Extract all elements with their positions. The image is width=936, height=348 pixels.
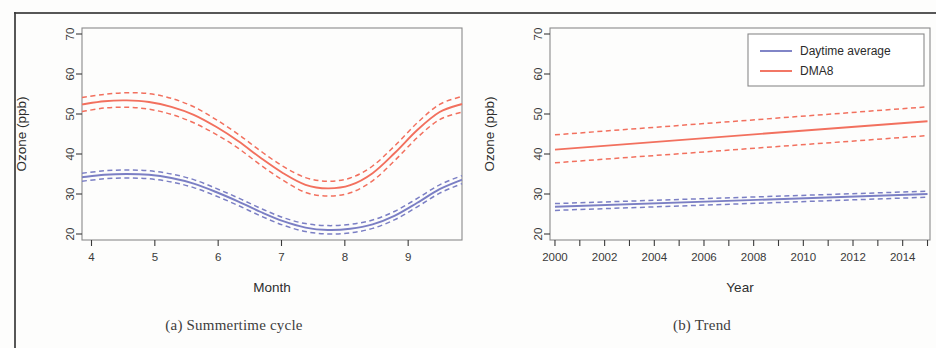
svg-text:2006: 2006	[691, 251, 717, 263]
svg-text:2000: 2000	[542, 251, 568, 263]
figure-page: 203040506070456789MonthOzone (ppb) (a) S…	[0, 0, 936, 348]
svg-text:70: 70	[532, 28, 544, 41]
svg-text:Ozone (ppb): Ozone (ppb)	[482, 96, 497, 171]
svg-text:Daytime average: Daytime average	[800, 44, 891, 58]
svg-text:9: 9	[405, 251, 411, 263]
svg-text:2014: 2014	[890, 251, 916, 263]
plot-area-b: 2030405060702000200220042006200820102012…	[468, 0, 936, 300]
svg-text:20: 20	[64, 228, 76, 241]
svg-text:30: 30	[532, 188, 544, 201]
svg-text:20: 20	[532, 228, 544, 241]
svg-text:2002: 2002	[592, 251, 618, 263]
svg-text:Year: Year	[726, 280, 754, 295]
svg-text:60: 60	[64, 68, 76, 81]
svg-text:50: 50	[64, 108, 76, 121]
svg-text:40: 40	[532, 148, 544, 161]
svg-text:40: 40	[64, 148, 76, 161]
svg-text:2004: 2004	[642, 251, 668, 263]
plot-area-a: 203040506070456789MonthOzone (ppb)	[0, 0, 468, 300]
panel-trend: 2030405060702000200220042006200820102012…	[468, 0, 936, 348]
svg-text:60: 60	[532, 68, 544, 81]
svg-text:DMA8: DMA8	[800, 64, 834, 78]
svg-text:2012: 2012	[840, 251, 866, 263]
svg-text:8: 8	[342, 251, 348, 263]
panel-summertime-cycle: 203040506070456789MonthOzone (ppb) (a) S…	[0, 0, 468, 348]
svg-text:2010: 2010	[791, 251, 817, 263]
svg-text:7: 7	[278, 251, 284, 263]
svg-text:6: 6	[215, 251, 221, 263]
svg-text:30: 30	[64, 188, 76, 201]
svg-text:70: 70	[64, 28, 76, 41]
svg-text:Month: Month	[253, 280, 291, 295]
svg-text:Ozone (ppb): Ozone (ppb)	[14, 96, 29, 171]
svg-text:5: 5	[152, 251, 158, 263]
svg-text:2008: 2008	[741, 251, 767, 263]
svg-text:4: 4	[88, 251, 95, 263]
caption-panel-a: (a) Summertime cycle	[0, 317, 468, 334]
caption-panel-b: (b) Trend	[468, 317, 936, 334]
svg-text:50: 50	[532, 108, 544, 121]
